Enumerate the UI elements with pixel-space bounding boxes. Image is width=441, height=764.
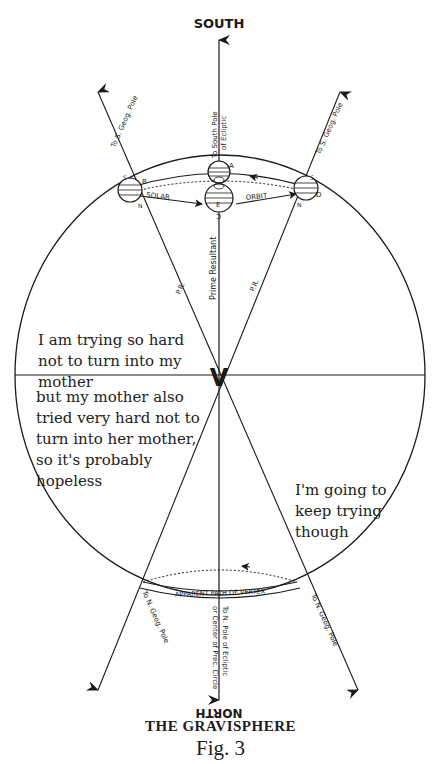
earth-globe-top-a (208, 161, 230, 183)
to-s-geog-pole-left-label: To S. Geog. Pole (109, 94, 139, 149)
prime-resultant-label: Prime Resultant (209, 237, 218, 300)
n-right-label: N (297, 201, 302, 208)
to-n-pole-ecliptic-label-2: or Center of Prec. Circle (211, 606, 219, 689)
earth-globe-right (294, 176, 318, 200)
annotation-lower-left: but my mother also tried very hard not t… (36, 387, 206, 492)
point-d-label: D (316, 191, 321, 199)
annotation-upper-left: I am trying so hard not to turn into my … (38, 330, 213, 393)
apparent-path-dotted (143, 570, 297, 582)
to-n-pole-ecliptic-label-1: To N. Pole of Ecliptic (221, 605, 229, 676)
point-c-label: C (216, 212, 221, 220)
pr-right-label: P.R. (249, 278, 261, 292)
to-s-geog-pole-right-label: To S. Geog. Pole (314, 101, 344, 156)
point-a-label: A (229, 162, 234, 170)
pr-left-label: P.R. (175, 281, 187, 295)
to-n-geog-pole-left-label: To N. Geog. Pole (140, 589, 171, 645)
apparent-path-arrow (242, 566, 250, 567)
to-south-pole-ecliptic-label-2: of Ecliptic (220, 116, 228, 150)
point-b-label: B (142, 178, 147, 186)
orbit-label: ORBIT (245, 192, 268, 202)
n-left-label: N (138, 202, 143, 209)
annotation-lower-right: I'm going to keep trying though (295, 480, 395, 543)
to-south-pole-ecliptic-label-1: To South Pole (211, 111, 219, 159)
point-e-label: E (216, 201, 220, 209)
s-right-label: S (310, 174, 314, 181)
caption-fig: Fig. 3 (0, 736, 441, 761)
earth-globe-left (118, 178, 142, 202)
to-n-geog-pole-right-label: To N. Geog. Pole (309, 592, 340, 648)
caption-title: THE GRAVISPHERE (0, 718, 441, 735)
south-label: SOUTH (194, 16, 245, 31)
solar-label: SOLAR (146, 191, 171, 201)
s-left-label: S (123, 174, 127, 181)
